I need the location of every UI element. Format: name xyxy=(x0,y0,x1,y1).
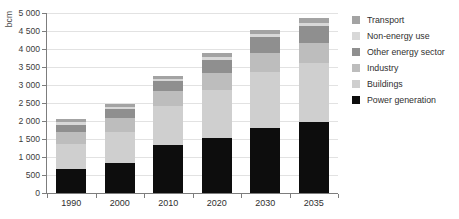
y-axis-tick-label: 0 xyxy=(0,189,40,198)
legend-item[interactable]: Power generation xyxy=(352,92,459,108)
stacked-bar-chart: bcm 5 0004 5004 0003 5003 0002 5002 0001… xyxy=(0,0,459,219)
legend-label: Power generation xyxy=(367,96,436,105)
x-axis-tick xyxy=(290,194,291,198)
legend-swatch-icon xyxy=(352,80,360,88)
legend-label: Industry xyxy=(367,64,398,73)
legend-label: Other energy sector xyxy=(367,48,445,57)
x-axis-tick-label: 2010 xyxy=(144,199,192,208)
y-axis-tick-label: 3 500 xyxy=(0,63,40,72)
legend-item[interactable]: Other energy sector xyxy=(352,44,459,60)
legend-swatch-icon xyxy=(352,64,360,72)
y-axis-tick xyxy=(42,139,47,140)
y-axis-tick-label: 5 000 xyxy=(0,9,40,18)
legend-swatch-icon xyxy=(352,32,360,40)
legend-label: Transport xyxy=(367,16,404,25)
y-axis-tick-label: 2 000 xyxy=(0,117,40,126)
y-axis-tick-label: 1 500 xyxy=(0,135,40,144)
legend-item[interactable]: Transport xyxy=(352,12,459,28)
y-axis-tick xyxy=(42,85,47,86)
legend-item[interactable]: Non-energy use xyxy=(352,28,459,44)
x-axis-tick xyxy=(241,194,242,198)
x-axis-tick-label: 2035 xyxy=(290,199,338,208)
x-axis-tick-label: 2030 xyxy=(241,199,289,208)
y-axis-tick xyxy=(42,103,47,104)
y-axis-tick-label: 2 500 xyxy=(0,99,40,108)
legend-item[interactable]: Buildings xyxy=(352,76,459,92)
y-axis-tick-label: 4 500 xyxy=(0,27,40,36)
y-axis-tick xyxy=(42,67,47,68)
y-axis-tick-label: 3 000 xyxy=(0,81,40,90)
x-axis-tick xyxy=(144,194,145,198)
y-axis-tick xyxy=(42,31,47,32)
chart-legend: TransportNon-energy useOther energy sect… xyxy=(352,12,459,108)
y-axis-tick xyxy=(42,175,47,176)
x-axis-tick xyxy=(96,194,97,198)
x-axis-tick-label: 1990 xyxy=(47,199,95,208)
y-axis-tick-label: 1 000 xyxy=(0,153,40,162)
x-axis-tick-label: 2000 xyxy=(96,199,144,208)
legend-swatch-icon xyxy=(352,48,360,56)
y-axis-tick xyxy=(42,49,47,50)
legend-label: Non-energy use xyxy=(367,32,430,41)
legend-item[interactable]: Industry xyxy=(352,60,459,76)
legend-swatch-icon xyxy=(352,96,360,104)
x-axis-tick xyxy=(338,194,339,198)
y-axis-tick xyxy=(42,157,47,158)
x-axis-tick xyxy=(47,194,48,198)
y-axis-tick-label: 4 000 xyxy=(0,45,40,54)
legend-label: Buildings xyxy=(367,80,403,89)
legend-swatch-icon xyxy=(352,16,360,24)
y-axis-tick xyxy=(42,13,47,14)
y-axis-tick xyxy=(42,121,47,122)
y-axis-tick-label: 500 xyxy=(0,171,40,180)
x-axis-tick xyxy=(193,194,194,198)
x-axis-tick-label: 2020 xyxy=(193,199,241,208)
